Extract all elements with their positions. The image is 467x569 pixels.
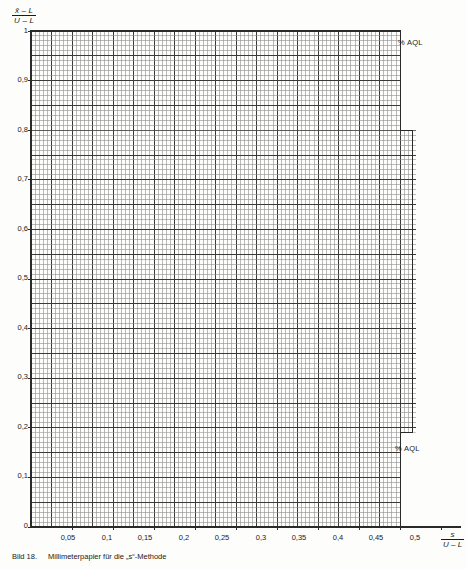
figure-caption: Bild 18.Millimeterpapier für die „s“-Met… (12, 552, 166, 561)
figure-page: x̄ – L U – L 1 0,9 0,8 0,7 0,6 0,5 0,4 0… (0, 0, 467, 569)
aql-label-bottom: % AQL (395, 444, 420, 453)
aql-label-top: % AQL (398, 38, 423, 47)
figure-caption-text: Millimeterpapier für die „s“-Methode (48, 552, 166, 561)
grid-plot (0, 0, 467, 569)
figure-caption-id: Bild 18. (12, 552, 37, 561)
